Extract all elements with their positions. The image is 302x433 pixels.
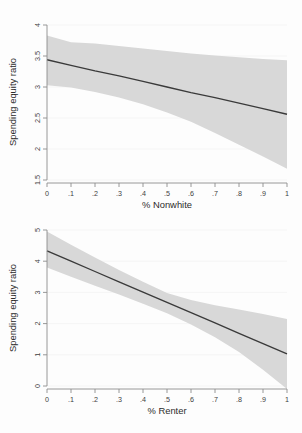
plot-area-renter xyxy=(47,230,287,389)
plot-area-nonwhite xyxy=(47,25,287,180)
y-axis-nonwhite: 1.522.533.54 xyxy=(33,23,47,185)
x-tick-label: .4 xyxy=(140,395,146,404)
x-tick-label: 0 xyxy=(45,189,49,198)
y-tick-label: 3.5 xyxy=(33,51,42,61)
x-tick-label: .9 xyxy=(260,189,266,198)
y-tick-label: 3 xyxy=(33,85,42,89)
figure-container: 1.522.533.54 0.1.2.3.4.5.6.7.8.91 Spendi… xyxy=(0,0,302,433)
x-tick-label: 0 xyxy=(45,395,49,404)
y-tick-label: 1 xyxy=(33,353,42,357)
fit-line-renter xyxy=(47,251,287,354)
x-axis-nonwhite: 0.1.2.3.4.5.6.7.8.91 xyxy=(45,183,289,198)
y-tick-label: 1.5 xyxy=(33,175,42,185)
x-tick-group: 0.1.2.3.4.5.6.7.8.91 xyxy=(45,389,289,404)
y-tick-label: 4 xyxy=(33,259,42,263)
x-tick-label: .1 xyxy=(68,189,74,198)
x-tick-label: .3 xyxy=(116,395,122,404)
x-tick-label: .9 xyxy=(260,395,266,404)
x-tick-label: 1 xyxy=(285,395,289,404)
x-tick-label: .2 xyxy=(92,395,98,404)
x-tick-label: .3 xyxy=(116,189,122,198)
x-tick-label: .5 xyxy=(164,395,170,404)
confidence-band-renter xyxy=(47,232,287,390)
y-axis-title-nonwhite: Spending equity ratio xyxy=(7,58,18,146)
x-tick-label: .8 xyxy=(236,189,242,198)
y-tick-label: 2 xyxy=(33,147,42,151)
chart-svg-renter: 012345 0.1.2.3.4.5.6.7.8.91 Spending equ… xyxy=(0,216,302,433)
y-tick-label: 0 xyxy=(33,384,42,388)
x-tick-label: .5 xyxy=(164,189,170,198)
y-tick-label: 2.5 xyxy=(33,113,42,123)
x-tick-label: .8 xyxy=(236,395,242,404)
y-tick-group: 1.522.533.54 xyxy=(33,23,47,185)
x-tick-label: .2 xyxy=(92,189,98,198)
y-tick-label: 5 xyxy=(33,228,42,232)
x-axis-renter: 0.1.2.3.4.5.6.7.8.91 xyxy=(45,389,289,404)
y-tick-group: 012345 xyxy=(33,228,47,388)
x-axis-title-renter: % Renter xyxy=(147,405,186,416)
y-axis-renter: 012345 xyxy=(33,228,47,388)
x-tick-label: .1 xyxy=(68,395,74,404)
chart-panel-renter: 012345 0.1.2.3.4.5.6.7.8.91 Spending equ… xyxy=(0,216,302,432)
y-axis-title-renter: Spending equity ratio xyxy=(7,264,18,352)
x-tick-label: .6 xyxy=(188,189,194,198)
x-tick-label: .7 xyxy=(212,189,218,198)
x-tick-label: 1 xyxy=(285,189,289,198)
x-tick-label: .4 xyxy=(140,189,146,198)
chart-panel-nonwhite: 1.522.533.54 0.1.2.3.4.5.6.7.8.91 Spendi… xyxy=(0,0,302,216)
chart-svg-nonwhite: 1.522.533.54 0.1.2.3.4.5.6.7.8.91 Spendi… xyxy=(0,0,302,217)
x-tick-label: .6 xyxy=(188,395,194,404)
x-axis-title-nonwhite: % Nonwhite xyxy=(142,199,192,210)
y-tick-label: 2 xyxy=(33,322,42,326)
x-tick-group: 0.1.2.3.4.5.6.7.8.91 xyxy=(45,183,289,198)
y-tick-label: 3 xyxy=(33,290,42,294)
y-tick-label: 4 xyxy=(33,23,42,27)
x-tick-label: .7 xyxy=(212,395,218,404)
